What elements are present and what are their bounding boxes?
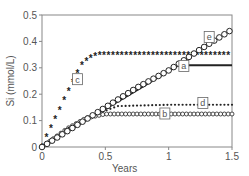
marker — [223, 104, 225, 106]
marker — [227, 104, 229, 106]
marker: * — [142, 50, 146, 61]
marker: * — [102, 50, 106, 61]
marker: * — [138, 50, 142, 61]
marker — [139, 112, 143, 116]
marker — [125, 105, 127, 107]
marker — [217, 35, 223, 41]
marker: * — [155, 50, 159, 61]
marker — [39, 144, 45, 150]
marker — [121, 105, 123, 107]
marker: * — [98, 50, 102, 61]
marker — [112, 112, 116, 116]
marker — [147, 104, 149, 106]
marker: * — [160, 50, 164, 61]
marker — [222, 112, 226, 116]
label-text: e — [207, 32, 212, 42]
marker — [131, 112, 135, 116]
marker — [174, 104, 176, 106]
marker — [184, 112, 188, 116]
marker — [203, 112, 207, 116]
marker — [186, 54, 192, 60]
marker: * — [67, 86, 71, 97]
marker — [215, 112, 219, 116]
marker — [155, 104, 157, 106]
marker: * — [164, 50, 168, 61]
marker: * — [151, 50, 155, 61]
marker: * — [217, 50, 221, 61]
series-group: ****************************************… — [39, 28, 234, 152]
marker: * — [129, 50, 133, 61]
x-tick-label: 0.5 — [98, 151, 112, 162]
marker: * — [89, 53, 93, 64]
marker: * — [49, 123, 53, 134]
marker — [105, 103, 111, 109]
marker: * — [124, 50, 128, 61]
label-d: d — [198, 97, 208, 108]
label-e: e — [204, 31, 214, 42]
marker — [230, 112, 234, 116]
marker — [49, 138, 55, 144]
marker — [177, 112, 181, 116]
marker: * — [204, 50, 208, 61]
marker — [146, 112, 150, 116]
marker — [95, 109, 101, 115]
marker — [116, 112, 120, 116]
marker — [65, 128, 71, 134]
marker — [140, 104, 142, 106]
marker — [159, 104, 161, 106]
marker — [166, 104, 168, 106]
marker — [178, 104, 180, 106]
marker — [166, 68, 172, 74]
marker — [59, 132, 65, 138]
marker — [222, 31, 228, 37]
marker: * — [62, 95, 66, 106]
marker — [54, 135, 60, 141]
marker — [170, 104, 172, 106]
marker: * — [58, 105, 62, 116]
marker: * — [209, 50, 213, 61]
y-tick-label: 0.1 — [23, 115, 37, 126]
series-labels: abcde — [72, 31, 214, 119]
marker — [150, 112, 154, 116]
label-b: b — [160, 108, 170, 119]
si-concentration-chart: 00.10.20.30.40.500.511.5 ***************… — [0, 0, 249, 176]
marker — [171, 64, 177, 70]
marker — [216, 104, 218, 106]
marker — [128, 105, 130, 107]
marker — [173, 112, 177, 116]
marker — [192, 112, 196, 116]
marker: * — [226, 50, 230, 61]
marker: * — [120, 50, 124, 61]
marker — [220, 104, 222, 106]
marker: * — [53, 114, 57, 125]
marker — [44, 141, 50, 147]
y-tick-label: 0.3 — [23, 62, 37, 73]
marker — [163, 104, 165, 106]
marker — [196, 112, 200, 116]
marker — [117, 105, 119, 107]
marker — [191, 51, 197, 57]
marker — [70, 125, 76, 131]
marker: * — [80, 60, 84, 71]
x-tick-label: 0 — [39, 151, 45, 162]
marker — [100, 106, 106, 112]
marker — [207, 112, 211, 116]
marker — [115, 97, 121, 103]
marker — [189, 104, 191, 106]
marker — [125, 90, 131, 96]
x-axis-label: Years — [112, 163, 137, 174]
x-tick-label: 1 — [166, 151, 172, 162]
marker — [201, 44, 207, 50]
marker: * — [146, 50, 150, 61]
y-tick-label: 0.2 — [23, 89, 37, 100]
label-c: c — [72, 74, 82, 85]
marker — [85, 116, 91, 122]
marker — [120, 94, 126, 100]
marker: * — [213, 50, 217, 61]
marker: * — [115, 50, 119, 61]
marker — [80, 119, 86, 125]
marker — [101, 113, 105, 117]
marker — [211, 112, 215, 116]
marker — [110, 100, 116, 106]
chart-svg: 00.10.20.30.40.500.511.5 ***************… — [0, 0, 249, 176]
